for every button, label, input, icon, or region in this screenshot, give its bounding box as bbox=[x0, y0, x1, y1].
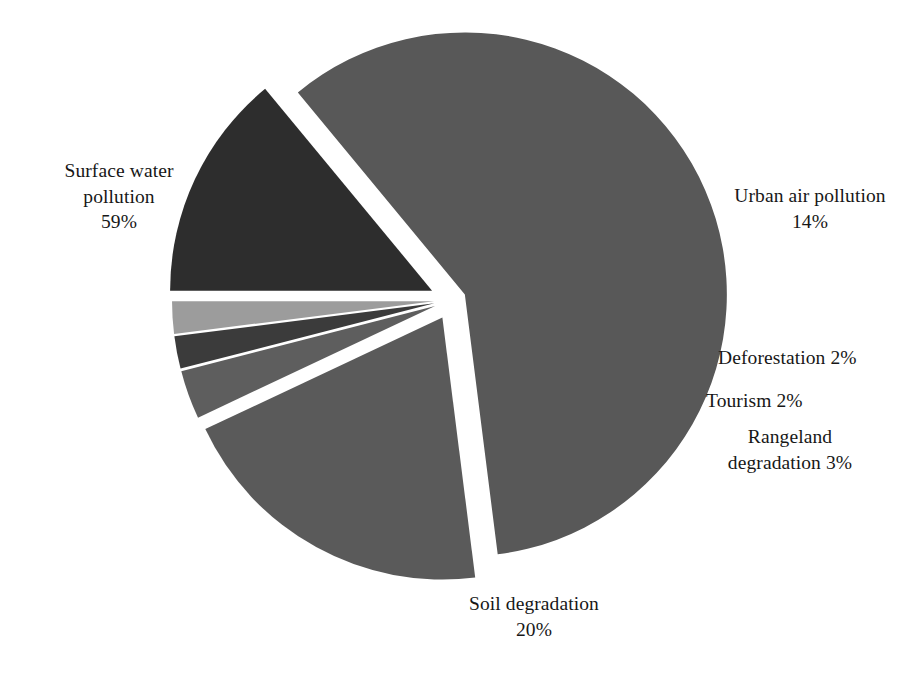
pie-chart: Surface water pollution 59%Urban air pol… bbox=[0, 0, 917, 674]
pie-chart-canvas bbox=[0, 0, 917, 674]
